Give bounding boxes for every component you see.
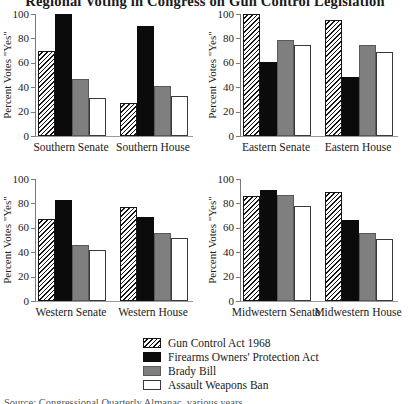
y-tick-label: 40 (206, 82, 234, 93)
chart-panel-eastern: Percent Votes "Yes"020406080100Eastern S… (205, 8, 410, 158)
chart-grid: Percent Votes "Yes"020406080100Southern … (0, 8, 410, 323)
y-tick-mark (31, 136, 35, 137)
y-tick-label: 80 (1, 198, 29, 209)
y-tick-mark (31, 112, 35, 113)
bar-gun-control-act-1968-midwestern-house (325, 192, 342, 301)
x-axis-labels: Southern SenateSouthern House (35, 141, 192, 157)
category-label-midwestern-house: Midwestern House (314, 306, 401, 318)
bar-firearms-owners-protection-act-western-house (137, 217, 154, 301)
y-tick-mark (236, 179, 240, 180)
category-label-southern-house: Southern House (116, 141, 190, 153)
legend-label: Gun Control Act 1968 (168, 337, 271, 349)
bar-firearms-owners-protection-act-southern-house (137, 26, 154, 136)
bar-gun-control-act-1968-western-house (120, 207, 137, 301)
legend-label: Firearms Owners' Protection Act (168, 351, 319, 363)
legend-label: Assault Weapons Ban (168, 379, 268, 391)
category-label-midwestern-senate: Midwestern Senate (232, 306, 320, 318)
bar-assault-weapons-ban-western-senate (89, 250, 106, 301)
bar-assault-weapons-ban-southern-senate (89, 98, 106, 136)
chart-legend: Gun Control Act 1968Firearms Owners' Pro… (143, 336, 319, 392)
bar-gun-control-act-1968-western-senate (38, 219, 55, 301)
y-tick-mark (31, 14, 35, 15)
y-tick-mark (236, 87, 240, 88)
y-tick-mark (31, 277, 35, 278)
bar-gun-control-act-1968-southern-senate (38, 51, 55, 136)
bar-assault-weapons-ban-eastern-house (376, 52, 393, 136)
bar-brady-bill-midwestern-senate (277, 195, 294, 301)
bar-brady-bill-southern-senate (72, 79, 89, 136)
bar-brady-bill-eastern-senate (277, 40, 294, 136)
plot-area (35, 14, 193, 137)
y-tick-mark (236, 112, 240, 113)
legend-swatch-hatch-icon (143, 338, 161, 348)
y-tick-label: 60 (206, 222, 234, 233)
bar-assault-weapons-ban-western-house (171, 238, 188, 301)
x-axis-labels: Eastern SenateEastern House (240, 141, 397, 157)
bar-gun-control-act-1968-midwestern-senate (243, 196, 260, 301)
bar-firearms-owners-protection-act-midwestern-house (342, 220, 359, 301)
y-tick-label: 20 (206, 271, 234, 282)
y-tick-mark (31, 63, 35, 64)
y-tick-label: 100 (206, 9, 234, 20)
legend-swatch-black-icon (143, 352, 161, 362)
y-tick-mark (236, 301, 240, 302)
y-tick-label: 60 (1, 57, 29, 68)
y-tick-mark (31, 38, 35, 39)
y-tick-mark (236, 38, 240, 39)
bar-gun-control-act-1968-southern-house (120, 103, 137, 136)
y-tick-mark (236, 228, 240, 229)
y-tick-mark (236, 14, 240, 15)
bar-firearms-owners-protection-act-eastern-senate (260, 62, 277, 136)
figure-page: Regional Voting in Congress on Gun Contr… (0, 0, 410, 404)
y-tick-label: 20 (1, 271, 29, 282)
bar-firearms-owners-protection-act-midwestern-senate (260, 190, 277, 301)
y-tick-label: 100 (206, 174, 234, 185)
bar-firearms-owners-protection-act-western-senate (55, 200, 72, 301)
legend-row-gun-control-act-1968: Gun Control Act 1968 (143, 336, 319, 350)
bar-brady-bill-western-house (154, 233, 171, 301)
category-label-eastern-senate: Eastern Senate (242, 141, 310, 153)
y-tick-label: 20 (1, 106, 29, 117)
bar-firearms-owners-protection-act-southern-senate (55, 14, 72, 136)
plot-area (240, 179, 398, 302)
y-tick-label: 0 (1, 296, 29, 307)
legend-swatch-gray-icon (143, 366, 161, 376)
y-tick-label: 40 (1, 247, 29, 258)
y-tick-mark (31, 301, 35, 302)
y-tick-label: 0 (206, 296, 234, 307)
bar-brady-bill-midwestern-house (359, 233, 376, 301)
y-tick-mark (236, 203, 240, 204)
y-tick-label: 40 (1, 82, 29, 93)
x-axis-labels: Western SenateWestern House (35, 306, 192, 322)
chart-panel-midwestern: Percent Votes "Yes"020406080100Midwester… (205, 173, 410, 323)
legend-swatch-white-icon (143, 380, 161, 390)
bar-gun-control-act-1968-eastern-senate (243, 14, 260, 136)
y-tick-mark (236, 277, 240, 278)
legend-row-assault-weapons-ban: Assault Weapons Ban (143, 378, 319, 392)
y-tick-mark (236, 63, 240, 64)
plot-area (240, 14, 398, 137)
bar-assault-weapons-ban-midwestern-house (376, 239, 393, 301)
bar-brady-bill-eastern-house (359, 45, 376, 137)
y-tick-label: 100 (1, 9, 29, 20)
bar-firearms-owners-protection-act-eastern-house (342, 77, 359, 136)
y-tick-label: 80 (206, 198, 234, 209)
y-tick-label: 80 (1, 33, 29, 44)
y-tick-label: 0 (206, 131, 234, 142)
y-tick-label: 100 (1, 174, 29, 185)
x-axis-labels: Midwestern SenateMidwestern House (240, 306, 397, 322)
chart-panel-southern: Percent Votes "Yes"020406080100Southern … (0, 8, 205, 158)
category-label-western-senate: Western Senate (36, 306, 107, 318)
y-tick-mark (31, 87, 35, 88)
category-label-southern-senate: Southern Senate (33, 141, 108, 153)
legend-row-brady-bill: Brady Bill (143, 364, 319, 378)
legend-row-firearms-owners-protection-act: Firearms Owners' Protection Act (143, 350, 319, 364)
bar-brady-bill-southern-house (154, 86, 171, 136)
bar-gun-control-act-1968-eastern-house (325, 20, 342, 136)
y-tick-label: 20 (206, 106, 234, 117)
bar-assault-weapons-ban-southern-house (171, 96, 188, 136)
category-label-western-house: Western House (118, 306, 188, 318)
y-tick-label: 40 (206, 247, 234, 258)
y-tick-label: 60 (1, 222, 29, 233)
bar-brady-bill-western-senate (72, 245, 89, 301)
